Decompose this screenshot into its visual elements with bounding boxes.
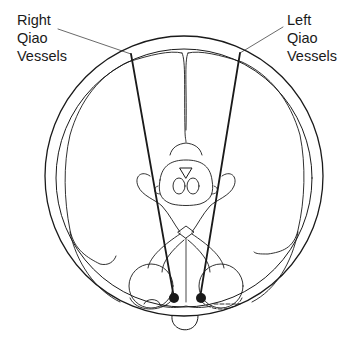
left-leader-line (240, 27, 283, 53)
longitudinal-fissure (182, 53, 188, 142)
brain-diagram (0, 0, 363, 347)
midbrain (159, 160, 212, 206)
left-qiao-vessel (200, 53, 240, 298)
right-qiao-vessel (131, 54, 174, 298)
left-vessel-point (196, 293, 206, 303)
left-hemisphere-lower (70, 232, 120, 302)
left-colliculus (173, 178, 185, 194)
right-vessel-point (169, 293, 179, 303)
occipital-bump (172, 316, 198, 330)
triangle-ventricle (180, 168, 192, 178)
right-hemisphere-lower (252, 232, 298, 302)
left-cerebellum (129, 264, 173, 308)
right-colliculus (187, 178, 199, 194)
left-hemisphere-outline (65, 52, 182, 264)
corpus-callosum (170, 143, 202, 155)
right-leader-line (58, 29, 131, 54)
